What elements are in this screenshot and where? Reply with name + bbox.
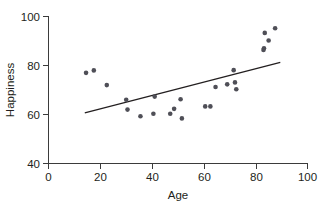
data-point [178, 97, 183, 102]
data-point [234, 87, 239, 92]
data-point [104, 83, 109, 88]
data-point [180, 116, 185, 121]
data-point [125, 107, 130, 112]
x-tick-label-40: 40 [146, 171, 159, 183]
y-axis-title: Happiness [4, 63, 16, 118]
y-tick-label-60: 60 [27, 109, 40, 121]
y-axis: 100 80 60 40 Happiness [4, 11, 49, 170]
data-point [262, 31, 267, 36]
x-tick-label-100: 100 [298, 171, 317, 183]
data-point [138, 114, 143, 119]
data-point [84, 71, 89, 76]
data-point [233, 80, 238, 85]
data-point [213, 85, 218, 90]
x-tick-label-80: 80 [250, 171, 263, 183]
x-tick-label-20: 20 [94, 171, 107, 183]
data-point [92, 68, 97, 73]
y-tick-label-100: 100 [21, 11, 40, 23]
data-point [208, 104, 213, 109]
data-point [231, 68, 236, 73]
data-point [172, 107, 177, 112]
data-point [273, 26, 278, 31]
data-point [225, 82, 230, 87]
data-points-group [84, 26, 278, 121]
y-tick-label-80: 80 [27, 60, 40, 72]
data-point [124, 98, 129, 103]
x-tick-label-0: 0 [45, 171, 51, 183]
data-point [262, 46, 267, 51]
y-tick-label-40: 40 [27, 158, 40, 170]
scatter-chart: 100 80 60 40 Happiness 0 20 40 60 80 100… [0, 0, 324, 206]
data-point [203, 104, 208, 109]
x-axis-title: Age [168, 189, 188, 201]
trend-line-group [85, 62, 281, 112]
chart-canvas: 100 80 60 40 Happiness 0 20 40 60 80 100… [0, 0, 324, 206]
data-point [168, 111, 173, 116]
data-point [266, 38, 271, 43]
data-point [151, 111, 156, 116]
data-point [152, 94, 157, 99]
x-tick-label-60: 60 [198, 171, 211, 183]
x-axis: 0 20 40 60 80 100 Age [45, 164, 317, 202]
trend-line [85, 62, 281, 112]
